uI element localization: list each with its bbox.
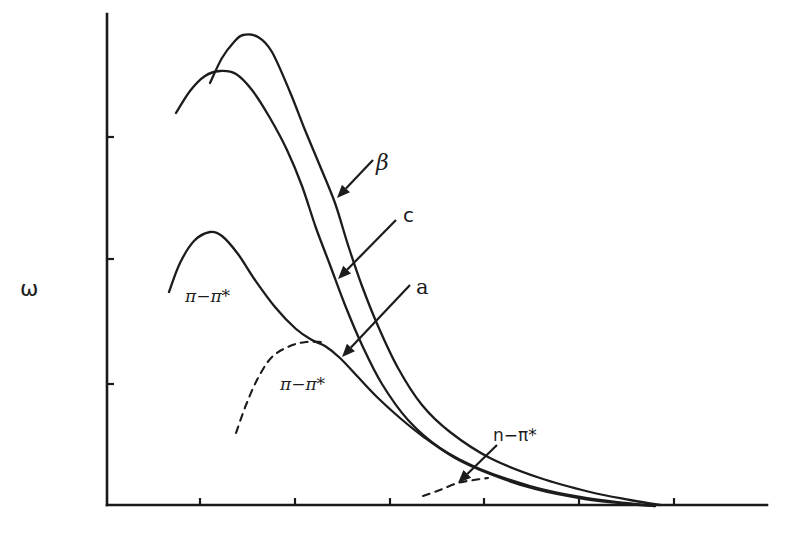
- arrow-icon: [337, 160, 373, 198]
- label-n-pi-star: n−π*: [493, 425, 537, 445]
- annotation-arrows: [337, 160, 497, 483]
- curve-beta: [210, 35, 660, 505]
- label-pi-pi-star-upper: π−π*: [184, 286, 231, 306]
- axes: [107, 14, 767, 505]
- label-beta: β: [375, 150, 389, 175]
- spectrum-chart: ω β c a π−π* π−π* n−π*: [0, 0, 791, 559]
- label-pi-pi-star-lower: π−π*: [279, 374, 326, 394]
- y-axis-label: ω: [20, 276, 38, 301]
- curves: [169, 35, 660, 506]
- arrow-icon: [338, 220, 396, 279]
- dashed-curve-n-pi-star: [423, 478, 488, 496]
- label-a: a: [416, 275, 429, 299]
- curve-a: [169, 232, 655, 506]
- label-c: c: [403, 203, 414, 227]
